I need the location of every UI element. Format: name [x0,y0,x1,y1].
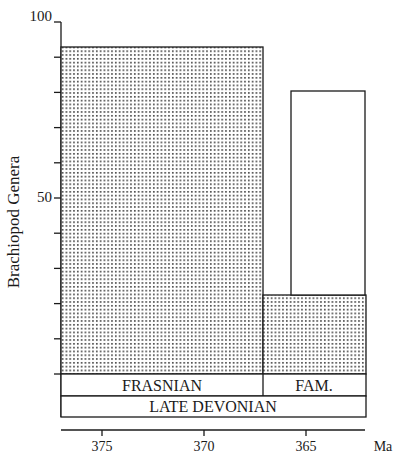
time-tick-label-375: 375 [92,439,113,454]
brachiopod-genera-chart: Brachiopod Genera 100 50 FRASNIAN FAM. L… [0,0,395,466]
y-ticks [54,22,61,374]
time-axis-unit-label: Ma [374,439,393,454]
time-axis-ticks [102,430,306,436]
y-tick-label-100: 100 [30,8,53,24]
stage-label-frasnian: FRASNIAN [122,377,202,394]
bar-famennian-stippled [263,295,366,374]
y-tick-label-50: 50 [37,189,52,205]
bar-famennian-open [291,91,365,295]
bar-frasnian [61,47,263,374]
stage-label-famennian: FAM. [295,377,333,394]
time-tick-label-365: 365 [296,439,317,454]
epoch-label-late-devonian: LATE DEVONIAN [149,398,277,415]
time-tick-label-370: 370 [194,439,215,454]
y-axis-label: Brachiopod Genera [4,155,23,288]
